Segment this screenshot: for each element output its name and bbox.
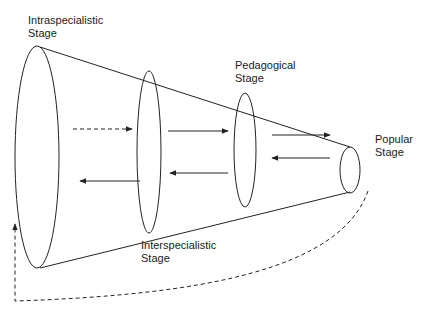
cone-diagram <box>0 0 431 313</box>
label-line: Stage <box>235 72 296 85</box>
cone-top-edge <box>40 47 350 147</box>
label-line: Intraspecialistic <box>28 14 103 27</box>
label-line: Popular <box>375 133 413 146</box>
ellipse-pedagogical <box>234 93 256 207</box>
label-line: Stage <box>28 27 103 40</box>
ellipse-intraspecialistic <box>15 46 59 268</box>
label-interspecialistic: Interspecialistic Stage <box>141 239 216 265</box>
label-pedagogical: Pedagogical Stage <box>235 59 296 85</box>
label-line: Interspecialistic <box>141 239 216 252</box>
label-line: Stage <box>375 146 413 159</box>
ellipse-popular <box>340 147 360 193</box>
label-intraspecialistic: Intraspecialistic Stage <box>28 14 103 40</box>
label-line: Pedagogical <box>235 59 296 72</box>
ellipse-interspecialistic <box>137 71 161 233</box>
label-popular: Popular Stage <box>375 133 413 159</box>
label-line: Stage <box>141 252 216 265</box>
